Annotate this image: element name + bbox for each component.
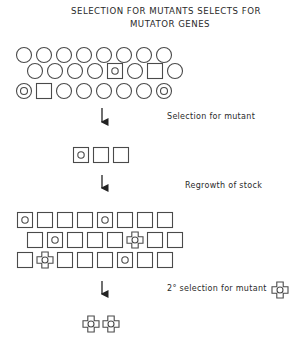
- square-icon: [78, 253, 93, 268]
- square-circle-icon: [74, 148, 89, 163]
- circle-icon: [68, 64, 83, 79]
- circle-icon: [17, 48, 32, 63]
- double-mutants: [83, 316, 119, 332]
- circle-icon: [37, 48, 52, 63]
- square-circle-icon: [48, 233, 63, 248]
- square-icon: [38, 213, 53, 228]
- circle-icon: [57, 48, 72, 63]
- circle-icon: [77, 48, 92, 63]
- circle-circle-icon: [17, 84, 32, 99]
- square-icon: [138, 253, 153, 268]
- circle-icon: [57, 84, 72, 99]
- selected-mutants: [74, 148, 129, 163]
- square-circle-icon: [98, 213, 113, 228]
- circle-icon: [97, 84, 112, 99]
- circle-icon: [137, 48, 152, 63]
- square-icon: [148, 233, 163, 248]
- cross-icon: [83, 316, 99, 332]
- cross-icon: [272, 282, 288, 298]
- circle-icon: [97, 48, 112, 63]
- square-icon: [37, 84, 52, 99]
- square-icon: [168, 233, 183, 248]
- square-icon: [138, 213, 153, 228]
- square-icon: [118, 213, 133, 228]
- square-icon: [58, 213, 73, 228]
- square-icon: [28, 233, 43, 248]
- square-icon: [114, 148, 129, 163]
- square-icon: [94, 148, 109, 163]
- circle-icon: [117, 48, 132, 63]
- circle-icon: [137, 84, 152, 99]
- square-icon: [78, 213, 93, 228]
- square-icon: [18, 253, 33, 268]
- regrown-population: [18, 213, 183, 269]
- cross-icon: [103, 316, 119, 332]
- square-icon: [58, 253, 73, 268]
- square-icon: [68, 233, 83, 248]
- circle-icon: [48, 64, 63, 79]
- square-circle-icon: [118, 253, 133, 268]
- circle-icon: [77, 84, 92, 99]
- circle-icon: [157, 48, 172, 63]
- square-icon: [88, 233, 103, 248]
- circle-icon: [117, 84, 132, 99]
- square-icon: [108, 233, 123, 248]
- square-icon: [98, 253, 113, 268]
- cross-icon: [127, 232, 143, 248]
- square-circle-icon: [18, 213, 33, 228]
- circle-circle-icon: [157, 84, 172, 99]
- circle-icon: [88, 64, 103, 79]
- cross-icon: [37, 252, 53, 268]
- square-circle-icon: [108, 64, 123, 79]
- diagram-canvas: [0, 0, 308, 353]
- square-icon: [158, 253, 173, 268]
- circle-icon: [128, 64, 143, 79]
- square-icon: [158, 213, 173, 228]
- circle-icon: [28, 64, 43, 79]
- square-icon: [148, 64, 163, 79]
- circle-icon: [168, 64, 183, 79]
- cross-icon: [272, 282, 288, 298]
- initial-population: [17, 48, 183, 99]
